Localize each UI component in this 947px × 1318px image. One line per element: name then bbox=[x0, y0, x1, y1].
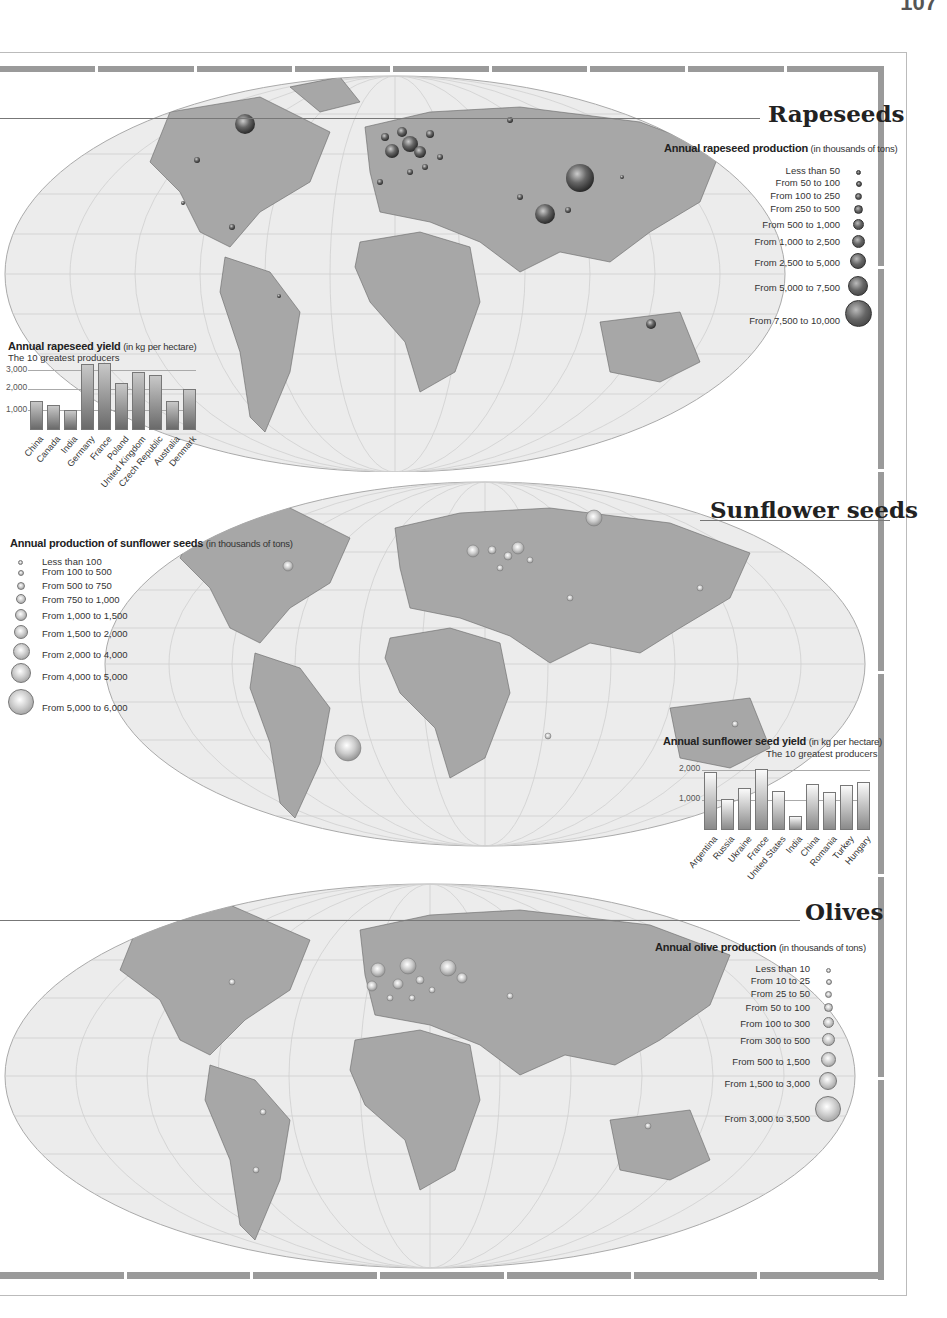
legend-item-label: From 4,000 to 5,000 bbox=[42, 671, 128, 682]
olive-legend: Less than 10 From 10 to 25 From 25 to 50… bbox=[690, 960, 850, 1130]
legend-item-label: From 3,000 to 3,500 bbox=[724, 1113, 810, 1124]
sunflower-yield-title: Annual sunflower seed yield bbox=[663, 735, 806, 747]
y-tick: 1,000 bbox=[6, 404, 27, 414]
sunflower-yield-unit: (in kg per hectare) bbox=[809, 736, 882, 747]
legend-bubble-icon bbox=[856, 181, 862, 187]
legend-bubble-icon bbox=[815, 1096, 841, 1122]
rapeseed-legend-title: Annual rapeseed production bbox=[664, 142, 808, 154]
legend-bubble-icon bbox=[18, 570, 24, 576]
rapeseed-legend-header: Annual rapeseed production (in thousands… bbox=[664, 142, 898, 154]
rapeseed-legend-unit: (in thousands of tons) bbox=[811, 143, 898, 154]
rapeseed-legend: Less than 50 From 50 to 100 From 100 to … bbox=[700, 160, 900, 330]
bar-germany bbox=[81, 364, 94, 430]
olive-title: Olives bbox=[805, 898, 883, 925]
bar-denmark bbox=[183, 389, 196, 430]
sunflower-legend-unit: (in thousands of tons) bbox=[206, 538, 293, 549]
legend-item-label: From 100 to 300 bbox=[740, 1018, 810, 1029]
bar-canada bbox=[47, 405, 60, 430]
legend-bubble-icon bbox=[15, 609, 27, 621]
legend-item-label: From 250 to 500 bbox=[770, 203, 840, 214]
sunflower-legend-header: Annual production of sunflower seeds (in… bbox=[10, 537, 293, 549]
page-number: 107 bbox=[900, 0, 937, 16]
legend-bubble-icon bbox=[14, 625, 28, 639]
legend-bubble-icon bbox=[13, 643, 30, 660]
legend-item-label: From 5,000 to 6,000 bbox=[42, 702, 128, 713]
bar-india bbox=[789, 816, 802, 830]
olive-legend-unit: (in thousands of tons) bbox=[779, 942, 866, 953]
legend-item-label: From 1,500 to 2,000 bbox=[42, 628, 128, 639]
olive-legend-header: Annual olive production (in thousands of… bbox=[655, 941, 866, 953]
rapeseed-title: Rapeseeds bbox=[768, 100, 905, 127]
legend-item-label: From 10 to 25 bbox=[751, 975, 810, 986]
rapeseed-yield-title: Annual rapeseed yield bbox=[8, 340, 121, 352]
sunflower-legend-title: Annual production of sunflower seeds bbox=[10, 537, 203, 549]
sunflower-yield-chart: 2,000 1,000 Argentina Russia Ukraine Fra… bbox=[676, 760, 876, 870]
legend-item-label: Less than 50 bbox=[786, 165, 840, 176]
legend-item-label: From 500 to 1,500 bbox=[732, 1056, 810, 1067]
legend-bubble-icon bbox=[845, 300, 872, 327]
legend-item-label: From 2,500 to 5,000 bbox=[754, 257, 840, 268]
legend-item-label: From 7,500 to 10,000 bbox=[749, 315, 840, 326]
legend-item-label: From 5,000 to 7,500 bbox=[754, 282, 840, 293]
legend-item-label: From 300 to 500 bbox=[740, 1035, 810, 1046]
y-tick: 2,000 bbox=[679, 763, 700, 773]
legend-bubble-icon bbox=[823, 1017, 834, 1028]
legend-item-label: From 1,500 to 3,000 bbox=[724, 1078, 810, 1089]
legend-item-label: From 500 to 750 bbox=[42, 580, 112, 591]
legend-bubble-icon bbox=[855, 193, 862, 200]
sunflower-yield-header: Annual sunflower seed yield (in kg per h… bbox=[663, 735, 882, 747]
legend-item-label: From 750 to 1,000 bbox=[42, 594, 120, 605]
olive-title-rule bbox=[0, 920, 800, 921]
legend-bubble-icon bbox=[821, 1052, 836, 1067]
y-tick: 3,000 bbox=[6, 364, 27, 374]
legend-item-label: From 25 to 50 bbox=[751, 988, 810, 999]
legend-item-label: From 50 to 100 bbox=[746, 1002, 810, 1013]
legend-bubble-icon bbox=[826, 979, 832, 985]
legend-bubble-icon bbox=[854, 205, 863, 214]
legend-bubble-icon bbox=[18, 560, 23, 565]
legend-bubble-icon bbox=[11, 663, 31, 683]
y-tick: 2,000 bbox=[6, 382, 27, 392]
bar-france bbox=[755, 769, 768, 830]
legend-bubble-icon bbox=[819, 1072, 837, 1090]
bar-argentina bbox=[704, 772, 717, 830]
rapeseed-yield-chart: 3,000 2,000 1,000 China Canada India Ger… bbox=[0, 362, 200, 472]
legend-item-label: From 500 to 1,000 bbox=[762, 219, 840, 230]
legend-bubble-icon bbox=[850, 253, 866, 269]
legend-bubble-icon bbox=[848, 276, 868, 296]
legend-item-label: From 100 to 500 bbox=[42, 566, 112, 577]
bar-india bbox=[64, 410, 77, 430]
bar-china bbox=[806, 784, 819, 830]
legend-bubble-icon bbox=[852, 235, 865, 248]
bar-czech-republic bbox=[149, 375, 162, 430]
bar-hungary bbox=[857, 782, 870, 830]
bar-turkey bbox=[840, 785, 853, 830]
bar-poland bbox=[115, 383, 128, 430]
y-tick: 1,000 bbox=[679, 793, 700, 803]
rapeseed-yield-header: Annual rapeseed yield (in kg per hectare… bbox=[8, 340, 196, 352]
legend-bubble-icon bbox=[17, 582, 25, 590]
legend-bubble-icon bbox=[856, 170, 861, 175]
legend-bubble-icon bbox=[822, 1033, 835, 1046]
legend-item-label: From 1,000 to 2,500 bbox=[754, 236, 840, 247]
legend-item-label: From 100 to 250 bbox=[770, 190, 840, 201]
bar-china bbox=[30, 401, 43, 430]
legend-bubble-icon bbox=[825, 991, 832, 998]
legend-item-label: Less than 10 bbox=[756, 963, 810, 974]
legend-item-label: From 2,000 to 4,000 bbox=[42, 649, 128, 660]
legend-item-label: From 1,000 to 1,500 bbox=[42, 610, 128, 621]
bar-australia bbox=[166, 401, 179, 430]
legend-item-label: From 50 to 100 bbox=[776, 177, 840, 188]
bar-russia bbox=[721, 799, 734, 830]
sunflower-title: Sunflower seeds bbox=[710, 496, 918, 523]
frame-bar-bottom bbox=[0, 1272, 884, 1279]
bar-united-states bbox=[772, 791, 785, 830]
legend-bubble-icon bbox=[8, 689, 34, 715]
legend-bubble-icon bbox=[853, 219, 864, 230]
rapeseed-bars bbox=[30, 362, 198, 430]
sunflower-bars bbox=[704, 760, 872, 830]
legend-bubble-icon bbox=[826, 968, 831, 973]
bar-united-kingdom bbox=[132, 372, 145, 430]
sunflower-yield-subtitle: The 10 greatest producers bbox=[766, 748, 877, 759]
sunflower-legend: Less than 100 From 100 to 500 From 500 t… bbox=[8, 556, 208, 721]
